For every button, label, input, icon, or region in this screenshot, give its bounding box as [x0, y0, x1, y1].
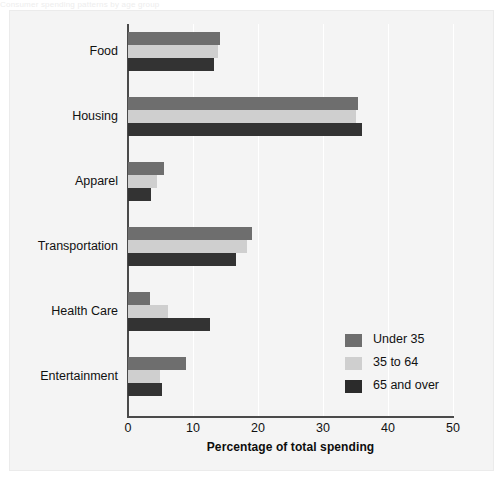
legend-swatch	[345, 357, 362, 370]
bar	[128, 357, 186, 370]
x-axis-title: Percentage of total spending	[128, 440, 453, 454]
legend: Under 3535 to 6465 and over	[345, 330, 477, 399]
legend-label: 35 to 64	[373, 355, 418, 369]
legend-swatch	[345, 380, 362, 393]
bar	[128, 383, 162, 396]
x-tick-label: 10	[173, 421, 213, 435]
bar	[128, 45, 218, 58]
bar	[128, 188, 151, 201]
bar-group	[128, 227, 453, 266]
x-axis-line	[127, 416, 454, 418]
bar	[128, 123, 362, 136]
legend-item: 65 and over	[345, 376, 477, 399]
bar	[128, 240, 247, 253]
x-tick-label: 40	[368, 421, 408, 435]
bar	[128, 32, 220, 45]
bar	[128, 110, 356, 123]
bar	[128, 97, 358, 110]
bar	[128, 227, 252, 240]
legend-item: Under 35	[345, 330, 477, 353]
bar	[128, 292, 150, 305]
chart-figure: Consumer spending patterns by age group …	[0, 0, 503, 480]
category-label-housing: Housing	[8, 109, 118, 123]
bar-group	[128, 162, 453, 201]
legend-label: Under 35	[373, 332, 424, 346]
bar	[128, 58, 214, 71]
category-label-apparel: Apparel	[8, 174, 118, 188]
bar	[128, 175, 157, 188]
x-tick-label: 0	[108, 421, 148, 435]
bar-group	[128, 97, 453, 136]
bar-group	[128, 292, 453, 331]
x-tick-label: 50	[433, 421, 473, 435]
category-label-health-care: Health Care	[8, 304, 118, 318]
category-label-food: Food	[8, 44, 118, 58]
category-label-entertainment: Entertainment	[8, 369, 118, 383]
category-label-transportation: Transportation	[8, 239, 118, 253]
clipped-figure-title: Consumer spending patterns by age group	[0, 0, 503, 9]
bar	[128, 318, 210, 331]
bar	[128, 253, 236, 266]
legend-label: 65 and over	[373, 378, 439, 392]
legend-item: 35 to 64	[345, 353, 477, 376]
bar	[128, 305, 168, 318]
x-tick-label: 20	[238, 421, 278, 435]
bar	[128, 370, 160, 383]
bar-group	[128, 32, 453, 71]
legend-swatch	[345, 334, 362, 347]
x-tick-label: 30	[303, 421, 343, 435]
bar	[128, 162, 164, 175]
